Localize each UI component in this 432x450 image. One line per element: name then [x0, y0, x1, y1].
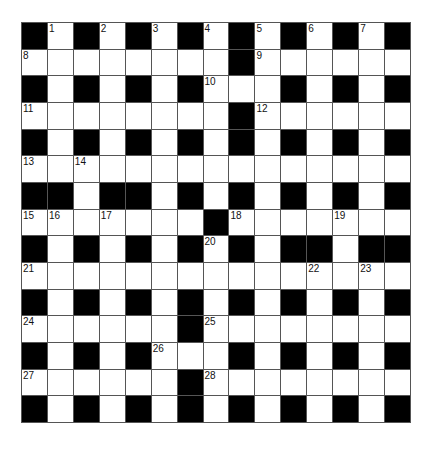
- answer-cell[interactable]: [333, 370, 358, 396]
- answer-cell[interactable]: [48, 343, 73, 369]
- answer-cell[interactable]: [100, 396, 125, 422]
- answer-cell[interactable]: [100, 156, 125, 182]
- answer-cell[interactable]: 18: [229, 210, 254, 236]
- answer-cell[interactable]: [48, 236, 73, 262]
- answer-cell[interactable]: [307, 316, 332, 342]
- answer-cell[interactable]: [281, 156, 306, 182]
- answer-cell[interactable]: [255, 130, 280, 156]
- answer-cell[interactable]: 5: [255, 23, 280, 49]
- answer-cell[interactable]: [204, 343, 229, 369]
- answer-cell[interactable]: [100, 103, 125, 129]
- answer-cell[interactable]: [100, 370, 125, 396]
- answer-cell[interactable]: [359, 156, 384, 182]
- answer-cell[interactable]: [385, 316, 410, 342]
- answer-cell[interactable]: [152, 370, 177, 396]
- answer-cell[interactable]: [385, 370, 410, 396]
- answer-cell[interactable]: [255, 290, 280, 316]
- answer-cell[interactable]: [204, 290, 229, 316]
- answer-cell[interactable]: 27: [22, 370, 47, 396]
- answer-cell[interactable]: [152, 396, 177, 422]
- answer-cell[interactable]: 4: [204, 23, 229, 49]
- answer-cell[interactable]: 7: [359, 23, 384, 49]
- answer-cell[interactable]: [359, 396, 384, 422]
- answer-cell[interactable]: [100, 343, 125, 369]
- answer-cell[interactable]: [48, 103, 73, 129]
- answer-cell[interactable]: [152, 263, 177, 289]
- answer-cell[interactable]: [126, 156, 151, 182]
- answer-cell[interactable]: [281, 263, 306, 289]
- answer-cell[interactable]: [48, 50, 73, 76]
- answer-cell[interactable]: [100, 130, 125, 156]
- answer-cell[interactable]: [152, 290, 177, 316]
- answer-cell[interactable]: 13: [22, 156, 47, 182]
- answer-cell[interactable]: [307, 76, 332, 102]
- answer-cell[interactable]: [100, 236, 125, 262]
- answer-cell[interactable]: [100, 290, 125, 316]
- answer-cell[interactable]: [333, 156, 358, 182]
- answer-cell[interactable]: [359, 343, 384, 369]
- answer-cell[interactable]: 9: [255, 50, 280, 76]
- answer-cell[interactable]: [281, 103, 306, 129]
- answer-cell[interactable]: 19: [333, 210, 358, 236]
- answer-cell[interactable]: [152, 316, 177, 342]
- answer-cell[interactable]: [204, 103, 229, 129]
- answer-cell[interactable]: [359, 130, 384, 156]
- answer-cell[interactable]: [359, 103, 384, 129]
- answer-cell[interactable]: [100, 263, 125, 289]
- answer-cell[interactable]: [152, 156, 177, 182]
- answer-cell[interactable]: [255, 183, 280, 209]
- answer-cell[interactable]: [204, 396, 229, 422]
- answer-cell[interactable]: [178, 103, 203, 129]
- answer-cell[interactable]: [385, 50, 410, 76]
- answer-cell[interactable]: 8: [22, 50, 47, 76]
- answer-cell[interactable]: [126, 370, 151, 396]
- answer-cell[interactable]: [178, 263, 203, 289]
- answer-cell[interactable]: [359, 50, 384, 76]
- answer-cell[interactable]: [100, 316, 125, 342]
- answer-cell[interactable]: [48, 290, 73, 316]
- answer-cell[interactable]: [307, 210, 332, 236]
- answer-cell[interactable]: 17: [100, 210, 125, 236]
- answer-cell[interactable]: [333, 316, 358, 342]
- answer-cell[interactable]: [307, 130, 332, 156]
- answer-cell[interactable]: [48, 76, 73, 102]
- answer-cell[interactable]: [281, 370, 306, 396]
- answer-cell[interactable]: [48, 370, 73, 396]
- answer-cell[interactable]: 25: [204, 316, 229, 342]
- answer-cell[interactable]: [385, 156, 410, 182]
- answer-cell[interactable]: [74, 370, 99, 396]
- answer-cell[interactable]: [126, 316, 151, 342]
- answer-cell[interactable]: [333, 236, 358, 262]
- answer-cell[interactable]: [255, 370, 280, 396]
- answer-cell[interactable]: [385, 210, 410, 236]
- answer-cell[interactable]: [48, 396, 73, 422]
- answer-cell[interactable]: [74, 263, 99, 289]
- answer-cell[interactable]: [48, 316, 73, 342]
- answer-cell[interactable]: [385, 263, 410, 289]
- answer-cell[interactable]: 12: [255, 103, 280, 129]
- answer-cell[interactable]: [48, 130, 73, 156]
- answer-cell[interactable]: [178, 50, 203, 76]
- answer-cell[interactable]: [359, 370, 384, 396]
- answer-cell[interactable]: [74, 50, 99, 76]
- answer-cell[interactable]: [74, 103, 99, 129]
- answer-cell[interactable]: [307, 343, 332, 369]
- answer-cell[interactable]: [178, 156, 203, 182]
- answer-cell[interactable]: 21: [22, 263, 47, 289]
- answer-cell[interactable]: 11: [22, 103, 47, 129]
- answer-cell[interactable]: [178, 210, 203, 236]
- answer-cell[interactable]: [126, 263, 151, 289]
- answer-cell[interactable]: [152, 130, 177, 156]
- answer-cell[interactable]: 15: [22, 210, 47, 236]
- answer-cell[interactable]: [281, 316, 306, 342]
- answer-cell[interactable]: [74, 210, 99, 236]
- answer-cell[interactable]: [255, 396, 280, 422]
- answer-cell[interactable]: [307, 396, 332, 422]
- answer-cell[interactable]: [100, 50, 125, 76]
- answer-cell[interactable]: [359, 316, 384, 342]
- answer-cell[interactable]: [229, 76, 254, 102]
- answer-cell[interactable]: [255, 236, 280, 262]
- answer-cell[interactable]: [255, 343, 280, 369]
- answer-cell[interactable]: [333, 103, 358, 129]
- answer-cell[interactable]: [204, 130, 229, 156]
